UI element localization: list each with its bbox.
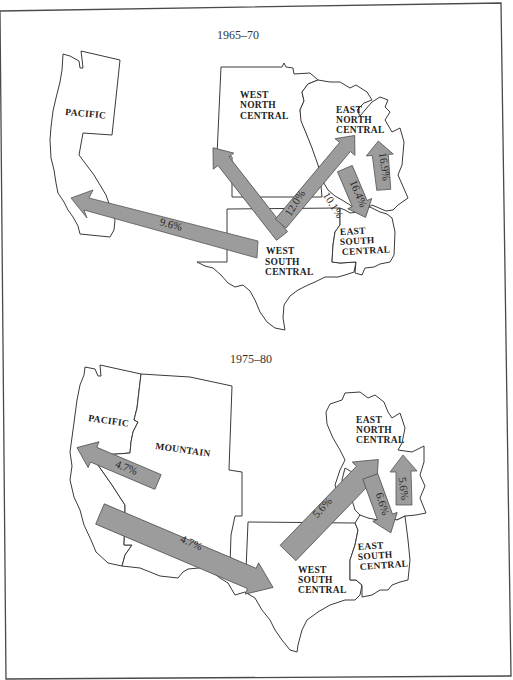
region-label-wsc-3: CENTRAL xyxy=(298,585,347,595)
region-label-enc-3: CENTRAL xyxy=(356,435,405,445)
region-label-wnc-1: WEST xyxy=(240,90,269,100)
region-label-wnc-3: CENTRAL xyxy=(240,111,289,121)
panel-title: 1975–80 xyxy=(230,352,272,366)
region-label-enc-2: NORTH xyxy=(336,115,372,125)
region-label-enc-2: NORTH xyxy=(356,425,392,435)
panel-1975-80: 1975–80 4.7% 4.7% xyxy=(70,352,426,652)
region-label-enc-3: CENTRAL xyxy=(336,125,385,135)
region-label-wnc-2: NORTH xyxy=(240,100,276,110)
figure-svg: 1965–70 9.6% xyxy=(0,0,513,680)
region-label-wsc-1: WEST xyxy=(266,246,295,256)
region-label-enc-1: EAST xyxy=(356,415,382,425)
migration-maps-figure: 1965–70 9.6% xyxy=(0,0,513,680)
region-label-wsc-2: SOUTH xyxy=(298,575,333,585)
panel-title: 1965–70 xyxy=(217,28,259,42)
region-label-enc-1: EAST xyxy=(336,105,362,115)
region-label-wsc-2: SOUTH xyxy=(265,257,300,267)
region-label-wsc-3: CENTRAL xyxy=(265,267,314,277)
region-label-wsc-1: WEST xyxy=(298,565,327,575)
